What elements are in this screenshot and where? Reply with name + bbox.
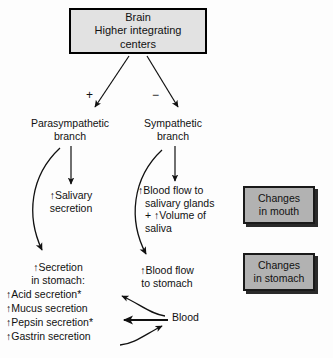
brain-line-1: Brain: [125, 11, 151, 24]
brain-line-2: Higher integrating: [95, 24, 182, 37]
parasympathetic-branch-label: Parasympathetic branch: [22, 117, 118, 142]
blood-flow-salivary-line-1: ↑Blood flow to: [138, 184, 230, 197]
blood-flow-stomach-label: ↑Blood flow to stomach: [128, 264, 206, 289]
stomach-secretion-list: ↑Acid secretion* ↑Mucus secretion ↑Pepsi…: [6, 288, 118, 344]
stomach-secretion-heading-line-1: ↑Secretion: [6, 261, 110, 274]
brain-box: Brain Higher integrating centers: [69, 8, 207, 54]
changes-in-mouth-line-1: Changes: [258, 192, 300, 205]
arrow-brain-to-parasympathetic: [95, 56, 129, 107]
diagram-canvas: Brain Higher integrating centers + − Par…: [0, 0, 333, 358]
sympathetic-line-1: Sympathetic: [133, 117, 213, 130]
brain-line-3: centers: [120, 38, 156, 51]
salivary-secretion-line-1: ↑Salivary: [32, 189, 110, 202]
changes-in-stomach-line-2: in stomach: [254, 272, 305, 285]
parasympathetic-line-1: Parasympathetic: [22, 117, 118, 130]
blood-flow-salivary-line-2: salivary glands: [138, 197, 230, 210]
changes-in-mouth-box: Changes in mouth: [243, 186, 315, 224]
changes-in-stomach-line-1: Changes: [258, 259, 300, 272]
blood-flow-salivary-line-3: + ↑Volume of: [138, 209, 230, 222]
salivary-secretion-label: ↑Salivary secretion: [32, 189, 110, 214]
arrow-blood-to-acid: [122, 296, 165, 316]
blood-flow-stomach-line-1: ↑Blood flow: [128, 264, 206, 277]
parasympathetic-line-2: branch: [22, 130, 118, 143]
blood-flow-stomach-line-2: to stomach: [128, 277, 206, 290]
blood-label: Blood: [172, 311, 216, 324]
changes-in-mouth-line-2: in mouth: [259, 205, 299, 218]
changes-in-stomach-box: Changes in stomach: [243, 253, 315, 291]
salivary-secretion-line-2: secretion: [32, 202, 110, 215]
blood-flow-salivary-line-4: saliva: [138, 222, 230, 235]
sympathetic-branch-label: Sympathetic branch: [133, 117, 213, 142]
stomach-secretion-heading-line-2: in stomach:: [6, 274, 110, 287]
list-item: ↑Mucus secretion: [6, 302, 118, 315]
list-item: ↑Pepsin secretion*: [6, 316, 118, 329]
sympathetic-line-2: branch: [133, 130, 213, 143]
list-item: ↑Acid secretion*: [6, 288, 118, 301]
list-item: ↑Gastrin secretion: [6, 330, 118, 343]
arrow-blood-to-gastrin: [120, 326, 162, 345]
stomach-secretion-heading: ↑Secretion in stomach:: [6, 261, 110, 286]
minus-sign: −: [152, 89, 159, 101]
plus-sign: +: [86, 89, 93, 101]
blood-flow-salivary-label: ↑Blood flow to salivary glands + ↑Volume…: [138, 184, 230, 234]
